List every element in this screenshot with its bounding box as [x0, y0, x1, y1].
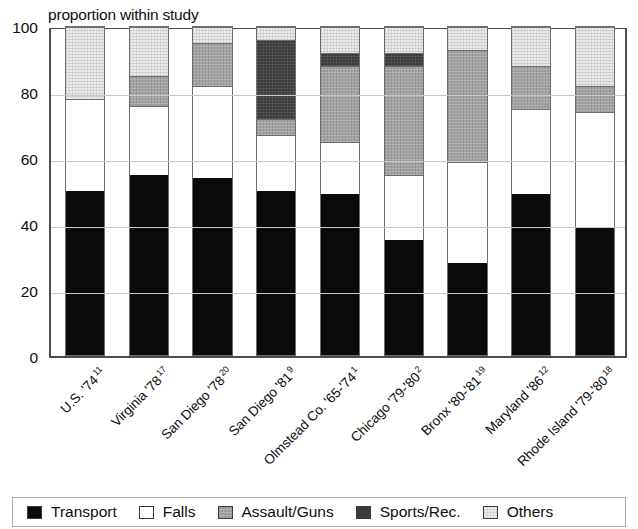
- bar-segment-falls[interactable]: [257, 135, 295, 191]
- bar-segment-sports[interactable]: [257, 40, 295, 119]
- bar-segment-others[interactable]: [321, 27, 359, 53]
- legend-item[interactable]: Others: [483, 503, 554, 521]
- legend-swatch-falls-icon: [139, 506, 154, 519]
- bar-column: [511, 29, 551, 356]
- bar-segment-transport[interactable]: [257, 191, 295, 355]
- bar-segment-falls[interactable]: [130, 106, 168, 175]
- plot-area: [49, 28, 627, 358]
- bar-segment-transport[interactable]: [321, 194, 359, 355]
- y-tick-label: 40: [21, 217, 38, 235]
- bar-segment-transport[interactable]: [576, 227, 614, 355]
- stacked-bar[interactable]: [256, 26, 296, 356]
- bar-segment-assault[interactable]: [385, 66, 423, 174]
- bar-segment-sports[interactable]: [385, 53, 423, 66]
- bar-segment-others[interactable]: [257, 27, 295, 40]
- x-label-reference: 9: [285, 364, 296, 375]
- bar-segment-falls[interactable]: [385, 175, 423, 241]
- bar-segment-assault[interactable]: [576, 86, 614, 112]
- bar-column: [65, 29, 105, 356]
- stacked-bar[interactable]: [320, 26, 360, 356]
- bar-segment-assault[interactable]: [193, 43, 231, 86]
- legend-label: Falls: [163, 503, 196, 521]
- y-tick-label: 100: [12, 19, 38, 37]
- bar-segment-others[interactable]: [385, 27, 423, 53]
- stacked-bar[interactable]: [129, 26, 169, 356]
- legend-swatch-others-icon: [483, 506, 498, 519]
- bar-segment-others[interactable]: [576, 27, 614, 86]
- bar-column: [447, 29, 487, 356]
- legend-swatch-sports-icon: [356, 506, 371, 519]
- y-tick-label: 20: [21, 283, 38, 301]
- legend-swatch-transport-icon: [27, 506, 42, 519]
- bar-column: [575, 29, 615, 356]
- bar-segment-others[interactable]: [66, 27, 104, 99]
- bar-segment-assault[interactable]: [257, 119, 295, 135]
- bar-column: [129, 29, 169, 356]
- x-label-reference: 19: [473, 364, 487, 378]
- bar-segment-falls[interactable]: [448, 162, 486, 264]
- legend-swatch-assault-icon: [218, 506, 233, 519]
- stacked-bar[interactable]: [575, 26, 615, 356]
- stacked-bar[interactable]: [511, 26, 551, 356]
- stacked-bar[interactable]: [384, 26, 424, 356]
- gridline: [51, 293, 625, 294]
- bar-column: [320, 29, 360, 356]
- legend-label: Assault/Guns: [242, 503, 334, 521]
- legend-label: Transport: [51, 503, 117, 521]
- chart-legend: TransportFallsAssault/GunsSports/Rec.Oth…: [12, 497, 626, 527]
- legend-item[interactable]: Sports/Rec.: [356, 503, 461, 521]
- x-label-reference: 17: [154, 364, 168, 378]
- bar-segment-others[interactable]: [512, 27, 550, 66]
- x-label-reference: 18: [600, 364, 614, 378]
- bar-segment-falls[interactable]: [576, 112, 614, 227]
- bar-segment-transport[interactable]: [448, 263, 486, 355]
- x-tick-label: U.S. '7411: [56, 364, 108, 416]
- bar-segment-assault[interactable]: [512, 66, 550, 109]
- bar-segment-transport[interactable]: [130, 175, 168, 355]
- bar-segment-transport[interactable]: [193, 178, 231, 355]
- bar-segment-transport[interactable]: [385, 240, 423, 355]
- bar-segment-assault[interactable]: [448, 50, 486, 162]
- x-label-reference: 2: [412, 364, 423, 375]
- bar-column: [192, 29, 232, 356]
- x-label-reference: 20: [217, 364, 231, 378]
- bar-segment-others[interactable]: [130, 27, 168, 76]
- bar-segment-falls[interactable]: [193, 86, 231, 178]
- chart-title: proportion within study: [48, 6, 198, 24]
- gridline: [51, 95, 625, 96]
- bar-segment-falls[interactable]: [66, 99, 104, 191]
- bar-segment-sports[interactable]: [321, 53, 359, 66]
- gridline: [51, 227, 625, 228]
- stacked-bar-chart: proportion within study 020406080100 U.S…: [0, 0, 638, 529]
- bar-column: [384, 29, 424, 356]
- y-tick-label: 60: [21, 151, 38, 169]
- legend-label: Sports/Rec.: [380, 503, 461, 521]
- stacked-bar[interactable]: [65, 26, 105, 356]
- x-label-reference: 12: [536, 364, 550, 378]
- bar-segment-others[interactable]: [448, 27, 486, 50]
- y-tick-label: 80: [21, 85, 38, 103]
- stacked-bar[interactable]: [447, 26, 487, 356]
- bar-segment-transport[interactable]: [66, 191, 104, 355]
- legend-item[interactable]: Falls: [139, 503, 196, 521]
- x-label-reference: 11: [90, 364, 104, 378]
- bar-segment-others[interactable]: [193, 27, 231, 43]
- stacked-bar[interactable]: [192, 26, 232, 356]
- legend-item[interactable]: Transport: [27, 503, 117, 521]
- bar-column: [256, 29, 296, 356]
- bar-group: [53, 29, 623, 356]
- x-label-reference: 1: [349, 364, 360, 375]
- bar-segment-assault[interactable]: [130, 76, 168, 106]
- x-tick-label: Virginia '7817: [107, 364, 173, 430]
- legend-item[interactable]: Assault/Guns: [218, 503, 334, 521]
- bar-segment-assault[interactable]: [321, 66, 359, 141]
- legend-label: Others: [507, 503, 554, 521]
- x-axis: U.S. '7411Virginia '7817San Diego '7820S…: [0, 358, 638, 488]
- bar-segment-falls[interactable]: [321, 142, 359, 194]
- gridline: [51, 161, 625, 162]
- bar-segment-falls[interactable]: [512, 109, 550, 194]
- bar-segment-transport[interactable]: [512, 194, 550, 355]
- y-axis: 020406080100: [0, 28, 44, 358]
